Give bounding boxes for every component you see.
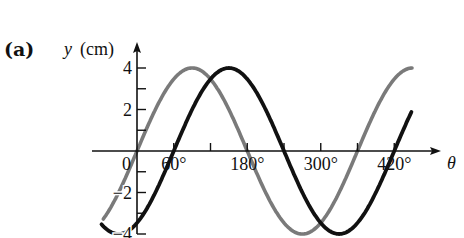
y-axis-variable: y: [62, 39, 72, 59]
y-tick-label: 2: [123, 100, 132, 120]
x-tick-label: 300°: [304, 154, 338, 174]
panel-label: (a): [4, 38, 34, 60]
y-axis-unit: (cm): [80, 39, 114, 60]
x-axis-label: θ: [447, 153, 456, 173]
x-tick-label: 180°: [230, 154, 264, 174]
x-tick-label: 60°: [161, 154, 186, 174]
chart: (a) y (cm) θ 060°180°300°420°42−2−4: [0, 0, 464, 238]
x-tick-label: 420°: [377, 154, 411, 174]
y-tick-label: 4: [123, 58, 132, 78]
y-tick-label: −4: [113, 224, 132, 238]
y-tick-label: −2: [113, 183, 132, 203]
y-axis-label: y (cm): [62, 39, 114, 60]
x-tick-label: 0: [122, 154, 131, 174]
